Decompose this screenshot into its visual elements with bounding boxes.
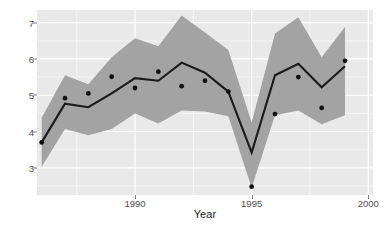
y-tick-label: 5: [12, 90, 34, 101]
data-point: [226, 89, 231, 94]
x-tick-mark: [135, 195, 136, 199]
plot-canvas: [37, 10, 373, 195]
data-point: [156, 69, 161, 74]
data-point: [296, 75, 301, 80]
data-point: [203, 78, 208, 83]
data-point: [133, 86, 138, 91]
y-tick-label: 4: [12, 126, 34, 137]
x-tick-label: 1995: [232, 198, 272, 209]
x-tick-label: 2000: [348, 198, 383, 209]
data-point: [109, 74, 114, 79]
data-point: [86, 91, 91, 96]
x-axis-title: Year: [37, 208, 373, 220]
y-tick-label: 3: [12, 162, 34, 173]
data-point: [63, 96, 68, 101]
data-point: [179, 84, 184, 89]
x-tick-mark: [252, 195, 253, 199]
data-point: [249, 184, 254, 189]
data-point: [343, 58, 348, 63]
y-tick-label: 6: [12, 53, 34, 64]
data-point: [39, 140, 44, 145]
x-tick-mark: [368, 195, 369, 199]
plot-panel: [37, 10, 373, 195]
y-tick-label: 7: [12, 17, 34, 28]
data-point: [273, 112, 278, 117]
data-point: [319, 106, 324, 111]
x-tick-label: 1990: [115, 198, 155, 209]
chart-figure: log Population Size Year 34567 199019952…: [0, 0, 383, 229]
